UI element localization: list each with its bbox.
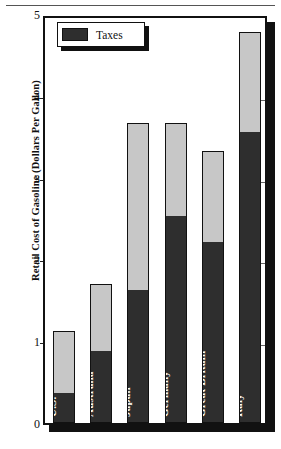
bar-tax-segment: Italy [240,132,260,422]
y-tick-label-4: 4 [18,91,40,103]
legend-box: Taxes [57,22,145,47]
bar-tax-segment: Australia [91,351,111,422]
bar-tax-segment: U.S. [54,393,74,422]
bar-category-label: Germany [166,371,170,417]
bar-tax-segment: Germany [166,216,186,422]
y-tick-label-1: 1 [18,336,40,348]
bar-italy[interactable]: Italy [239,32,261,423]
y-tick-label-2: 2 [18,254,40,266]
bar-category-label: Australia [91,371,95,417]
bar-germany[interactable]: Germany [165,123,187,423]
bar-tax-segment: Japan [128,290,148,422]
y-tick-label-3: 3 [18,173,40,185]
plot-area: U.S.AustraliaJapanGermanyGreat BritainIt… [43,16,267,425]
y-tick-label-0: 0 [18,418,40,430]
legend-swatch-taxes [62,28,88,41]
plot-frame-shadow-bottom [49,425,275,432]
bar-category-label: Japan [128,387,132,417]
bar-tax-segment: Great Britain [203,242,223,422]
top-divider-rule [6,5,275,6]
chart-legend: Taxes [57,22,145,47]
y-tick-label-5: 5 [18,9,40,21]
y-axis-ticks: 543210 [10,0,40,449]
bar-u-s[interactable]: U.S. [53,331,75,423]
bar-great-britain[interactable]: Great Britain [202,151,224,423]
bars-layer: U.S.AustraliaJapanGermanyGreat BritainIt… [45,18,265,423]
bar-australia[interactable]: Australia [90,284,112,423]
bar-category-label: Italy [240,394,244,417]
legend-label-taxes: Taxes [96,29,123,41]
bar-category-label: U.S. [54,397,58,417]
bar-japan[interactable]: Japan [127,123,149,423]
plot-frame-shadow-right [267,22,275,431]
bar-category-label: Great Britain [203,351,207,417]
